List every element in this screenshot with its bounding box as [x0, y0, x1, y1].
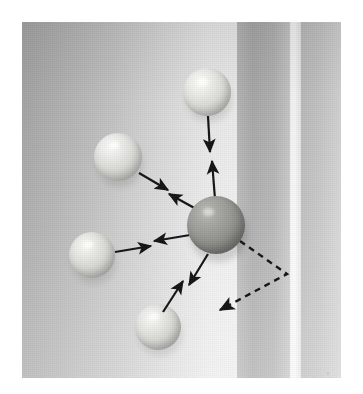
arrow-pair-top	[208, 116, 215, 199]
arrow-pair-upper-left	[139, 173, 198, 210]
arrow-pair-left	[115, 235, 190, 252]
arrow-layer	[22, 22, 341, 378]
sphere-center-highlight	[203, 208, 214, 216]
dust-speck	[327, 372, 329, 375]
arrow-pair-bottom	[163, 254, 208, 312]
photograph	[22, 22, 341, 378]
sphere-center	[187, 196, 245, 254]
figure-canvas	[0, 0, 363, 394]
dashed-reflection-arrow	[220, 241, 287, 310]
